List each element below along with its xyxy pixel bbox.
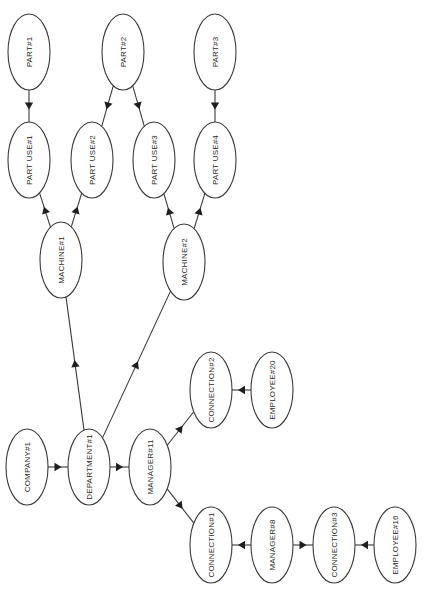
arrowhead-icon [25, 103, 33, 110]
node-partuse1: PART USE#1 [8, 122, 50, 198]
node-label: DEPARTMENT#1 [85, 434, 94, 500]
node-label: PART USE#2 [88, 135, 97, 185]
arrowhead-icon [175, 501, 183, 509]
node-label: PART#1 [25, 36, 34, 67]
node-partuse2: PART USE#2 [71, 122, 113, 198]
node-company1: COMPANY#1 [6, 429, 48, 505]
node-label: MACHINE#2 [180, 238, 189, 286]
node-connection3: CONNECTION#3 [313, 507, 355, 583]
edge-company1-to-department1 [48, 463, 68, 471]
node-label: PART USE#4 [211, 135, 220, 185]
arrowhead-icon [104, 101, 112, 109]
node-label: EMPLOYEE#16 [391, 515, 400, 575]
arrowhead-icon [175, 426, 183, 434]
node-label: PART#3 [211, 36, 220, 67]
edge-manager11-to-connection2 [167, 412, 194, 446]
arrowhead-icon [166, 208, 174, 216]
arrowhead-icon [300, 541, 307, 549]
node-label: PART USE#1 [25, 135, 34, 185]
node-label: MACHINE#1 [57, 236, 66, 284]
arrowhead-icon [71, 360, 79, 367]
arrowhead-icon [361, 541, 368, 549]
edge-department1-to-machine1 [66, 297, 84, 430]
edge-part2-to-partuse2 [102, 86, 114, 127]
nodes-layer: PART#1PART#2PART#3PART USE#1PART USE#2PA… [6, 14, 416, 583]
node-partuse3: PART USE#3 [133, 122, 175, 198]
node-machine1: MACHINE#1 [40, 222, 82, 298]
edge-part1-to-partuse1 [25, 90, 33, 122]
node-part1: PART#1 [8, 14, 50, 90]
node-label: CONNECTION#3 [330, 512, 339, 577]
node-employee20: EMPLOYEE#20 [251, 352, 293, 428]
arrowhead-icon [116, 463, 123, 471]
node-label: CONNECTION#2 [207, 357, 216, 422]
edge-manager8-to-connection1 [232, 541, 251, 549]
node-machine2: MACHINE#2 [163, 224, 205, 300]
node-label: PART#2 [119, 36, 128, 67]
edge-department1-to-machine2 [102, 291, 170, 438]
node-label: MANAGER#8 [268, 519, 277, 570]
edge-part3-to-partuse4 [211, 90, 219, 122]
node-partuse4: PART USE#4 [194, 122, 236, 198]
arrowhead-icon [238, 386, 245, 394]
entity-diagram: PART#1PART#2PART#3PART USE#1PART USE#2PA… [0, 0, 425, 589]
arrowhead-icon [55, 463, 62, 471]
node-connection1: CONNECTION#1 [190, 507, 232, 583]
arrowhead-icon [133, 101, 141, 109]
edge-manager8-to-connection3 [293, 541, 313, 549]
edge-machine1-to-partuse2 [71, 193, 81, 227]
node-label: PART USE#3 [150, 135, 159, 185]
node-manager8: MANAGER#8 [251, 507, 293, 583]
node-department1: DEPARTMENT#1 [68, 429, 110, 505]
node-employee16: EMPLOYEE#16 [374, 507, 416, 583]
node-connection2: CONNECTION#2 [190, 352, 232, 428]
edge-machine1-to-partuse1 [40, 193, 51, 227]
arrowhead-icon [211, 103, 219, 110]
node-label: MANAGER#11 [146, 439, 155, 495]
node-manager11: MANAGER#11 [129, 429, 171, 505]
edge-employee16-to-connection3 [355, 541, 374, 549]
edge-department1-to-manager11 [110, 463, 129, 471]
edge-employee20-to-connection2 [232, 386, 251, 394]
edge-machine2-to-partuse3 [164, 194, 174, 229]
node-label: EMPLOYEE#20 [268, 360, 277, 420]
edge-manager11-to-connection1 [167, 489, 194, 523]
node-part3: PART#3 [194, 14, 236, 90]
edge-part2-to-partuse3 [133, 86, 145, 127]
node-label: CONNECTION#1 [207, 512, 216, 577]
arrowhead-icon [238, 541, 245, 549]
edge-machine2-to-partuse4 [194, 193, 205, 228]
node-label: COMPANY#1 [23, 441, 32, 492]
node-part2: PART#2 [102, 14, 144, 90]
